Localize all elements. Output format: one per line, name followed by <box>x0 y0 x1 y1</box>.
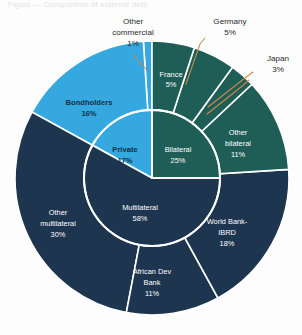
label-germany-line2: 5% <box>224 28 236 37</box>
label-other-multilateral-line3: 30% <box>51 230 66 239</box>
label-private-line2: 17% <box>117 156 132 165</box>
label-bilateral-line2: 25% <box>171 156 186 165</box>
label-african-dev-bank-line1: African Dev <box>133 267 172 276</box>
label-multilateral-line1: Multilateral <box>122 203 158 212</box>
label-multilateral-line2: 58% <box>133 214 148 223</box>
label-other-bilateral-line3: 11% <box>231 150 246 159</box>
label-bilateral-line1: Bilateral <box>165 145 192 154</box>
label-african-dev-bank-line2: Bank <box>144 278 161 287</box>
label-other-bilateral-line2: bilateral <box>225 139 251 148</box>
label-other-commercial-line2: commercial <box>112 28 154 37</box>
label-world-bank-line1: World Bank- <box>207 217 248 226</box>
label-other-multilateral-line1: Other <box>49 208 68 217</box>
label-germany-line1: Germany <box>213 17 247 26</box>
label-private-line1: Private <box>112 145 137 154</box>
label-world-bank-line2: IBRD <box>218 228 236 237</box>
label-bondholders-line2: 16% <box>81 109 96 118</box>
nested-pie-chart: Other commercial 1% Germany 5% Japan 3% … <box>0 0 302 335</box>
label-bondholders-line1: Bondholders <box>66 98 113 107</box>
figure-root: Figure — Composition of external debt <box>0 0 302 335</box>
label-other-commercial-line3: 1% <box>127 39 139 48</box>
label-african-dev-bank-line3: 11% <box>145 289 160 298</box>
label-other-multilateral-line2: multilateral <box>40 219 76 228</box>
label-japan-line1: Japan <box>267 54 289 63</box>
label-france-line1: France <box>159 70 182 79</box>
label-other-commercial-line1: Other <box>123 17 144 26</box>
label-other-bilateral-line1: Other <box>229 128 248 137</box>
label-japan-line2: 3% <box>272 65 284 74</box>
label-world-bank-line3: 18% <box>220 239 235 248</box>
label-france-line2: 5% <box>166 80 177 89</box>
